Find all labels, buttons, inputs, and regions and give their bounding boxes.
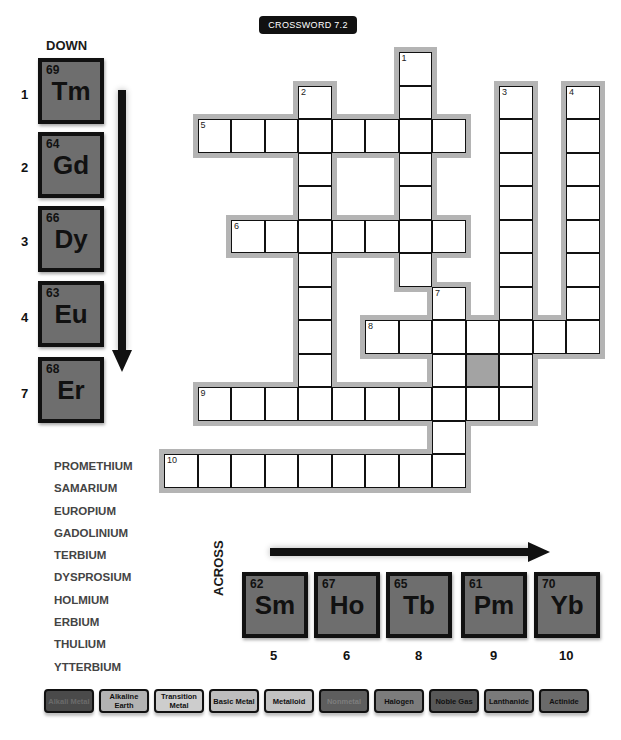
crossword-cell[interactable]: 7 [432,287,466,321]
element-symbol: Tm [42,76,100,107]
crossword-cell[interactable] [298,354,332,388]
legend-chip: Transition Metal [154,689,204,713]
crossword-cell[interactable] [499,119,533,153]
crossword-cell[interactable] [298,454,332,488]
crossword-cell[interactable]: 8 [365,320,399,354]
down-arrow-icon [118,90,126,352]
crossword-cell[interactable] [365,387,399,421]
crossword-cell[interactable] [231,454,265,488]
crossword-cell[interactable] [298,253,332,287]
across-clue-number: 8 [415,648,422,663]
crossword-cell[interactable] [265,220,299,254]
element-symbol: Gd [42,150,100,181]
crossword-cell[interactable] [399,220,433,254]
cell-clue-number: 1 [402,53,407,63]
crossword-cell[interactable]: 5 [198,119,232,153]
crossword-cell[interactable] [399,454,433,488]
crossword-cell[interactable] [332,387,366,421]
crossword-cell[interactable] [265,454,299,488]
crossword-cell[interactable] [466,320,500,354]
crossword-cell[interactable] [332,454,366,488]
crossword-cell[interactable] [399,387,433,421]
crossword-cell[interactable] [566,287,600,321]
crossword-cell[interactable] [332,220,366,254]
crossword-cell[interactable] [566,320,600,354]
crossword-cell[interactable]: 2 [298,86,332,120]
crossword-cell[interactable] [332,119,366,153]
word-bank-item: GADOLINIUM [54,522,133,544]
legend-chip: Basic Metal [209,689,259,713]
crossword-cell[interactable] [365,220,399,254]
atomic-number: 67 [322,577,335,591]
legend-chip: Nonmetal [319,689,369,713]
crossword-cell[interactable] [499,153,533,187]
crossword-cell[interactable] [265,119,299,153]
element-symbol: Tb [390,590,448,621]
crossword-cell[interactable] [432,320,466,354]
crossword-cell[interactable] [566,220,600,254]
crossword-cell[interactable] [499,186,533,220]
crossword-cell[interactable] [298,119,332,153]
crossword-cell[interactable] [432,220,466,254]
word-bank-item: YTTERBIUM [54,656,133,678]
legend-chip: Metalloid [264,689,314,713]
crossword-cell[interactable] [298,320,332,354]
element-symbol: Sm [246,590,304,621]
crossword-cell[interactable] [499,220,533,254]
crossword-cell[interactable] [432,354,466,388]
crossword-cell[interactable]: 9 [198,387,232,421]
crossword-cell[interactable]: 4 [566,86,600,120]
word-bank-item: HOLMIUM [54,589,133,611]
crossword-cell[interactable] [198,454,232,488]
crossword-cell[interactable] [231,119,265,153]
crossword-cell[interactable] [365,454,399,488]
crossword-cell[interactable] [566,153,600,187]
crossword-cell[interactable] [399,320,433,354]
crossword-cell[interactable] [231,387,265,421]
crossword-cell[interactable] [298,153,332,187]
crossword-cell[interactable]: 3 [499,86,533,120]
down-arrow-head-icon [112,350,132,372]
crossword-cell[interactable] [499,354,533,388]
cell-clue-number: 5 [201,120,206,130]
crossword-cell[interactable] [365,119,399,153]
element-symbol: Yb [538,590,596,621]
crossword-cell[interactable] [399,153,433,187]
crossword-cell[interactable] [399,186,433,220]
down-clue-number: 4 [21,310,28,325]
crossword-cell[interactable] [566,186,600,220]
crossword-cell[interactable] [399,119,433,153]
crossword-cell[interactable] [432,119,466,153]
cell-clue-number: 4 [569,87,574,97]
crossword-cell[interactable]: 1 [399,52,433,86]
crossword-cell[interactable] [298,220,332,254]
down-clue-number: 3 [21,234,28,249]
crossword-cell[interactable] [499,287,533,321]
crossword-cell[interactable] [432,421,466,455]
crossword-cell[interactable] [399,253,433,287]
crossword-cell[interactable] [533,320,567,354]
crossword-cell[interactable] [265,387,299,421]
crossword-cell[interactable] [399,86,433,120]
crossword-cell[interactable] [298,186,332,220]
crossword-cell[interactable]: 10 [164,454,198,488]
across-clue-number: 6 [343,648,350,663]
cell-clue-number: 3 [502,87,507,97]
crossword-cell[interactable]: 6 [231,220,265,254]
crossword-cell[interactable] [566,253,600,287]
crossword-cell[interactable] [298,287,332,321]
legend-chip: Alkaline Earth [99,689,149,713]
crossword-cell[interactable] [298,387,332,421]
crossword-cell[interactable] [466,387,500,421]
crossword-cell[interactable] [499,387,533,421]
element-tile-yb: 70 Yb [534,572,600,638]
crossword-cell[interactable] [432,454,466,488]
crossword-cell[interactable] [432,387,466,421]
crossword-cell[interactable] [499,253,533,287]
word-bank-item: TERBIUM [54,544,133,566]
crossword-cell[interactable] [566,119,600,153]
element-category-legend: Alkali MetalAlkaline EarthTransition Met… [44,689,589,713]
element-tile-pm: 61 Pm [461,572,527,638]
crossword-cell[interactable] [499,320,533,354]
across-arrow-head-icon [528,542,550,562]
